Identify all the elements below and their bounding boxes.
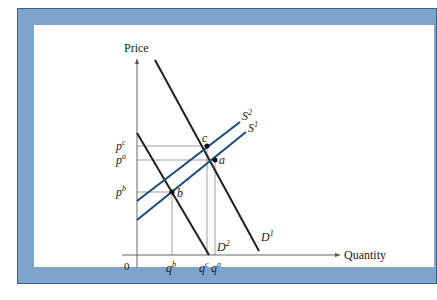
- quantity-tick-qc: qc: [199, 260, 209, 275]
- curve-label-d2: D2: [216, 239, 230, 254]
- quantity-tick-qa: qa: [211, 260, 221, 275]
- origin-label: 0: [124, 260, 130, 272]
- price-tick-pa: pa: [115, 152, 126, 167]
- price-tick-pc: pc: [115, 138, 126, 153]
- x-axis-label: Quantity: [344, 248, 386, 262]
- equilibrium-point-b: [170, 190, 175, 195]
- curve-label-d1: D1: [260, 229, 274, 244]
- axes: [122, 62, 337, 268]
- curve-label-s1: S1: [248, 120, 258, 135]
- point-label-c: c: [202, 131, 208, 145]
- price-tick-pb: pb: [115, 184, 126, 199]
- x-axis-arrow-icon: [335, 253, 341, 257]
- quantity-tick-qb: qb: [166, 260, 176, 275]
- y-axis-label: Price: [124, 41, 149, 55]
- y-axis-arrow-icon: [135, 58, 139, 64]
- equilibrium-point-a: [213, 158, 218, 163]
- point-label-b: b: [177, 186, 183, 200]
- point-label-a: a: [219, 153, 225, 167]
- supply-curve-s1: [137, 132, 246, 220]
